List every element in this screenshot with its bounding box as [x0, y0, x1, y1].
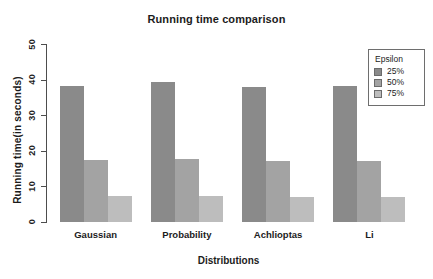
x-axis-label: Distributions	[46, 255, 411, 266]
y-axis-tick-label-text: 20	[28, 145, 37, 156]
bar	[84, 160, 108, 222]
y-axis-tick-label-text: 10	[28, 181, 37, 192]
y-axis-tick-label-text: 40	[28, 74, 37, 85]
legend-title: Epsilon	[375, 54, 419, 64]
bar	[60, 86, 84, 222]
legend-item: 50%	[374, 78, 419, 87]
legend-item-label: 50%	[387, 78, 404, 87]
bar	[381, 197, 405, 222]
bar	[242, 87, 266, 222]
chart-title: Running time comparison	[0, 13, 433, 25]
plot-area	[46, 44, 411, 222]
legend-item: 75%	[374, 89, 419, 98]
bar	[199, 196, 223, 222]
bar	[290, 197, 314, 222]
legend-swatch	[374, 90, 382, 98]
y-axis-tick-label-text: 30	[28, 110, 37, 121]
legend-item-label: 75%	[387, 89, 404, 98]
legend: Epsilon 25%50%75%	[368, 49, 425, 106]
legend-swatch	[374, 79, 382, 87]
y-axis-tick-label-text: 0	[28, 219, 37, 224]
bar-group	[151, 44, 223, 222]
legend-item: 25%	[374, 67, 419, 76]
bar	[333, 86, 357, 222]
legend-item-label: 25%	[387, 67, 404, 76]
legend-items: 25%50%75%	[374, 67, 419, 98]
y-axis-tick	[41, 222, 46, 223]
x-axis-category-label: Li	[313, 229, 425, 240]
y-axis-tick-label: 50	[18, 37, 37, 51]
bar-group	[242, 44, 314, 222]
bar	[175, 159, 199, 222]
chart-root: Running time comparison 01020304050 Runn…	[0, 0, 433, 279]
bar	[108, 196, 132, 222]
y-axis-tick-label: 0	[18, 215, 37, 229]
bar-group	[60, 44, 132, 222]
bar	[357, 161, 381, 222]
y-axis-tick-label-text: 50	[28, 39, 37, 50]
bar-groups	[46, 44, 411, 222]
bar	[151, 82, 175, 222]
y-axis-label: Running time(in seconds)	[12, 76, 23, 204]
legend-swatch	[374, 68, 382, 76]
bar	[266, 161, 290, 222]
